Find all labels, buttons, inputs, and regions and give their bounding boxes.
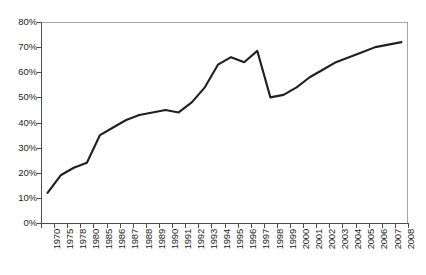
x-axis-tick-mark [107, 224, 108, 228]
x-axis-tick-label: 1995 [235, 229, 245, 249]
x-axis-tick-mark [120, 224, 121, 228]
y-axis-tick-label: 50% [0, 92, 37, 102]
x-axis-tick-label: 1975 [65, 229, 75, 249]
x-axis-tick-label: 1999 [288, 229, 298, 249]
x-axis-tick-label: 1970 [52, 229, 62, 249]
y-axis-tick-label: 60% [0, 67, 37, 77]
x-axis-tick-label: 1998 [275, 229, 285, 249]
x-axis-tick-mark [408, 224, 409, 228]
x-axis-tick-label: 2006 [379, 229, 389, 249]
y-axis-tick-mark [37, 97, 41, 98]
x-axis-tick-mark [251, 224, 252, 228]
y-axis-tick-mark [37, 22, 41, 23]
x-axis-tick-label: 1991 [183, 229, 193, 249]
y-axis-tick-mark [37, 123, 41, 124]
x-axis-tick-label: 2008 [406, 229, 416, 249]
plot-area-frame [41, 22, 408, 223]
x-axis-tick-label: 1993 [209, 229, 219, 249]
x-axis-tick-mark [264, 224, 265, 228]
x-axis-tick-label: 1997 [261, 229, 271, 249]
x-axis-tick-mark [198, 224, 199, 228]
x-axis-tick-mark [159, 224, 160, 228]
y-axis-tick-mark [37, 72, 41, 73]
x-axis-tick-mark [277, 224, 278, 228]
line-chart: 0%10%20%30%40%50%60%70%80% 1970197519781… [0, 0, 426, 275]
y-axis-tick-label: 70% [0, 42, 37, 52]
y-axis-tick-label: 30% [0, 143, 37, 153]
x-axis-tick-mark [133, 224, 134, 228]
x-axis-tick-label: 1988 [144, 229, 154, 249]
x-axis-tick-label: 2004 [353, 229, 363, 249]
x-axis-tick-mark [329, 224, 330, 228]
x-axis-tick-label: 1990 [170, 229, 180, 249]
x-axis-tick-label: 1987 [130, 229, 140, 249]
x-axis-tick-mark [382, 224, 383, 228]
y-axis-tick-label: 0% [0, 218, 37, 228]
x-axis-tick-mark [172, 224, 173, 228]
x-axis-tick-label: 2003 [340, 229, 350, 249]
y-axis-tick-mark [37, 173, 41, 174]
y-axis-tick-label: 40% [0, 118, 37, 128]
x-axis-tick-mark [54, 224, 55, 228]
x-axis-tick-mark [67, 224, 68, 228]
y-axis-tick-label: 10% [0, 193, 37, 203]
x-axis-tick-mark [395, 224, 396, 228]
x-axis-tick-mark [316, 224, 317, 228]
x-axis-tick-label: 1980 [91, 229, 101, 249]
x-axis-tick-labels: 1970197519781980198519861987198819891990… [0, 229, 426, 275]
x-axis-tick-mark [225, 224, 226, 228]
x-axis-tick-mark [211, 224, 212, 228]
y-axis-line [41, 22, 42, 224]
x-axis-tick-label: 1986 [117, 229, 127, 249]
x-axis-tick-mark [369, 224, 370, 228]
x-axis-tick-label: 1978 [78, 229, 88, 249]
y-axis-tick-mark [37, 198, 41, 199]
x-axis-tick-label: 1985 [104, 229, 114, 249]
x-axis-tick-mark [41, 224, 42, 228]
y-axis-tick-mark [37, 47, 41, 48]
y-axis-tick-label: 80% [0, 17, 37, 27]
y-axis-tick-mark [37, 148, 41, 149]
x-axis-tick-mark [290, 224, 291, 228]
x-axis-tick-mark [146, 224, 147, 228]
x-axis-tick-label: 1989 [157, 229, 167, 249]
x-axis-tick-label: 2000 [301, 229, 311, 249]
x-axis-tick-mark [80, 224, 81, 228]
x-axis-tick-label: 2005 [366, 229, 376, 249]
x-axis-tick-mark [93, 224, 94, 228]
x-axis-tick-mark [238, 224, 239, 228]
x-axis-tick-label: 2001 [314, 229, 324, 249]
x-axis-tick-mark [303, 224, 304, 228]
x-axis-tick-label: 2002 [327, 229, 337, 249]
x-axis-tick-label: 1996 [248, 229, 258, 249]
y-axis-tick-label: 20% [0, 168, 37, 178]
x-axis-tick-label: 1992 [196, 229, 206, 249]
x-axis-tick-label: 2007 [393, 229, 403, 249]
x-axis-tick-mark [342, 224, 343, 228]
x-axis-tick-label: 1994 [222, 229, 232, 249]
x-axis-tick-mark [356, 224, 357, 228]
x-axis-tick-mark [185, 224, 186, 228]
